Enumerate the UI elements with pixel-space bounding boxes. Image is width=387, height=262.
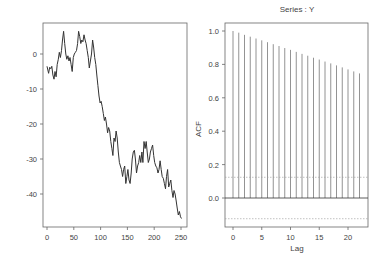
acf-y-axis: 0.00.20.40.60.81.0	[209, 27, 225, 203]
x-tick-label: 50	[70, 233, 78, 242]
acf-y-tick-label: 0.0	[209, 194, 219, 203]
x-tick-label: 250	[175, 233, 188, 242]
acf-y-tick-label: 1.0	[209, 27, 219, 36]
acf-y-tick-label: 0.8	[209, 60, 219, 69]
y-tick-label: -40	[26, 190, 37, 199]
figure: 0-10-20-30-40 050100150200250 Series : Y…	[0, 0, 387, 262]
y-tick-label: -10	[26, 85, 37, 94]
x-tick-label: 0	[45, 233, 49, 242]
time-series-line	[47, 31, 182, 218]
acf-x-tick-label: 10	[286, 233, 294, 242]
acf-panel: Series : Y 0.00.20.40.60.81.0 05101520 L…	[194, 5, 368, 253]
x-tick-label: 200	[148, 233, 161, 242]
acf-y-label: ACF	[194, 121, 203, 137]
acf-y-tick-label: 0.4	[209, 127, 219, 136]
y-tick-label: 0	[33, 50, 37, 59]
acf-x-axis: 05101520	[231, 227, 352, 242]
acf-title: Series : Y	[280, 5, 315, 14]
acf-x-tick-label: 0	[231, 233, 235, 242]
time-series-y-axis: 0-10-20-30-40	[26, 50, 43, 199]
acf-y-tick-label: 0.6	[209, 94, 219, 103]
time-series-panel: 0-10-20-30-40 050100150200250	[26, 23, 187, 242]
acf-bars	[233, 31, 360, 198]
y-tick-label: -20	[26, 120, 37, 129]
acf-y-tick-label: 0.2	[209, 161, 219, 170]
acf-x-tick-label: 5	[260, 233, 264, 242]
acf-x-tick-label: 15	[315, 233, 323, 242]
time-series-plot-frame	[43, 23, 187, 227]
x-tick-label: 150	[121, 233, 134, 242]
acf-x-label: Lag	[290, 244, 303, 253]
x-tick-label: 100	[94, 233, 107, 242]
y-tick-label: -30	[26, 155, 37, 164]
acf-x-tick-label: 20	[344, 233, 352, 242]
time-series-x-axis: 050100150200250	[45, 227, 187, 242]
